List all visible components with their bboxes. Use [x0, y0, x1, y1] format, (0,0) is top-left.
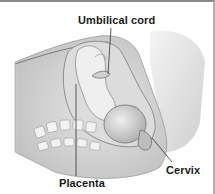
cervix-label: Cervix: [166, 164, 200, 176]
umbilical-cord-label: Umbilical cord: [78, 14, 155, 26]
placenta-label: Placenta: [59, 177, 105, 189]
anatomy-illustration: Umbilical cord Placenta Cervix: [0, 0, 215, 194]
